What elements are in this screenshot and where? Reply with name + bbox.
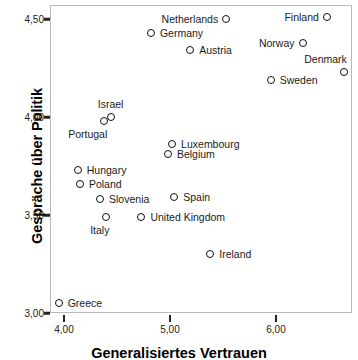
data-point-austria[interactable] [186, 46, 194, 54]
data-point-greece[interactable] [55, 299, 63, 307]
point-label-netherlands: Netherlands [162, 13, 219, 25]
data-point-sweden[interactable] [267, 76, 275, 84]
data-point-finland[interactable] [323, 13, 331, 21]
y-tick-mark [44, 312, 50, 315]
data-point-hungary[interactable] [74, 166, 82, 174]
point-label-greece: Greece [68, 297, 102, 309]
point-label-norway: Norway [259, 37, 295, 49]
data-point-germany[interactable] [147, 29, 155, 37]
data-point-norway[interactable] [299, 39, 307, 47]
y-tick-label: 4,50 [25, 14, 44, 25]
point-label-austria: Austria [199, 44, 232, 56]
data-point-poland[interactable] [76, 180, 84, 188]
point-label-germany: Germany [160, 27, 203, 39]
x-axis-title: Generalisiertes Vertrauen [0, 345, 358, 360]
data-point-netherlands[interactable] [222, 15, 230, 23]
y-axis-title: Gespräche über Politik [29, 36, 45, 296]
x-tick-label: 5,00 [160, 324, 179, 335]
scatter-chart: 4,504,003,503,00 4,005,006,00 Netherland… [0, 0, 358, 360]
data-point-spain[interactable] [170, 193, 178, 201]
data-point-ireland[interactable] [206, 250, 214, 258]
point-label-portugal: Portugal [68, 128, 107, 140]
point-label-hungary: Hungary [87, 164, 127, 176]
data-point-luxembourg[interactable] [168, 140, 176, 148]
x-tick-mark [169, 315, 172, 322]
data-point-denmark[interactable] [340, 68, 348, 76]
point-label-denmark: Denmark [304, 53, 347, 65]
point-label-ireland: Ireland [219, 248, 251, 260]
data-point-italy[interactable] [102, 213, 110, 221]
y-tick-label: 3,00 [25, 308, 44, 319]
point-label-united-kingdom: United Kingdom [150, 211, 225, 223]
point-label-sweden: Sweden [280, 74, 318, 86]
point-label-belgium: Belgium [177, 148, 215, 160]
point-label-slovenia: Slovenia [109, 193, 149, 205]
x-tick-label: 4,00 [54, 324, 73, 335]
point-label-spain: Spain [183, 191, 210, 203]
data-point-portugal[interactable] [100, 117, 108, 125]
data-point-belgium[interactable] [164, 150, 172, 158]
y-tick-mark [44, 18, 50, 21]
data-point-slovenia[interactable] [96, 195, 104, 203]
x-tick-mark [275, 315, 278, 322]
data-point-united-kingdom[interactable] [137, 213, 145, 221]
point-label-italy: Italy [90, 224, 109, 236]
x-tick-label: 6,00 [266, 324, 285, 335]
point-label-finland: Finland [284, 11, 318, 23]
x-tick-mark [63, 315, 66, 322]
point-label-poland: Poland [89, 178, 122, 190]
point-label-israel: Israel [98, 98, 124, 110]
